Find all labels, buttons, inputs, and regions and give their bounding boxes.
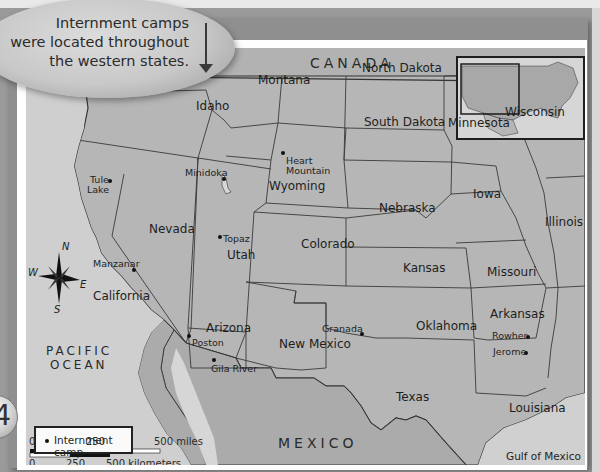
scale-miles-0: 0: [29, 436, 35, 447]
camp-label-granada: Granada: [322, 324, 363, 334]
country-label-mexico: MEXICO: [278, 436, 357, 450]
state-label-wyoming: Wyoming: [269, 180, 325, 192]
camp-marker-poston: [187, 334, 191, 338]
scale-miles-250: 250: [86, 436, 105, 447]
compass-north: N: [62, 242, 69, 252]
down-arrow-icon: [205, 23, 207, 67]
compass-east: E: [80, 280, 86, 290]
callout-text: Internment camps were located throughout…: [10, 14, 189, 71]
camp-marker-topaz: [218, 235, 222, 239]
state-label-arkansas: Arkansas: [490, 308, 545, 320]
camp-label-heart-mountain-line2: Mountain: [286, 166, 330, 176]
state-label-iowa: Iowa: [473, 188, 501, 200]
page-edge: [592, 8, 600, 472]
state-label-nebraska: Nebraska: [379, 202, 436, 214]
state-label-south-dakota: South Dakota: [364, 116, 445, 128]
callout-line-1: Internment camps: [10, 14, 189, 33]
callout-line-3: the western states.: [10, 52, 189, 71]
scale-miles-500: 500 miles: [154, 436, 203, 447]
camp-marker-heart-mountain: [281, 151, 285, 155]
callout-line-2: were located throughout: [10, 33, 189, 52]
compass-south: S: [54, 305, 60, 315]
down-arrowhead-icon: [199, 64, 213, 73]
camp-label-gila-river: Gila River: [211, 364, 257, 374]
state-label-nevada: Nevada: [149, 223, 195, 235]
water-label-gulf-of-mexico: Gulf of Mexico: [506, 451, 581, 462]
state-label-texas: Texas: [396, 391, 429, 403]
state-label-missouri: Missouri: [487, 266, 536, 278]
state-label-wisconsin: Wisconsin: [505, 106, 565, 118]
camp-label-tule-lake-line2: Lake: [87, 185, 109, 195]
compass-rose: N S E W: [34, 248, 84, 308]
compass-west: W: [28, 268, 38, 278]
camp-label-topaz: Topaz: [223, 234, 250, 244]
state-label-montana: Montana: [258, 74, 310, 86]
state-label-california: California: [93, 290, 150, 302]
page-number: 4: [0, 399, 11, 432]
state-label-illinois: Illinois: [545, 216, 583, 228]
state-label-minnesota: Minnesota: [448, 117, 510, 129]
internment-camps-map: CANADA MEXICO PACIFIC OCEAN Gulf of Mexi…: [26, 48, 585, 465]
camp-label-rowher: Rowher: [492, 331, 528, 341]
state-label-oklahoma: Oklahoma: [416, 320, 477, 332]
camp-marker-gila-river: [212, 358, 216, 362]
scale-km-250: 250: [66, 458, 85, 465]
state-label-kansas: Kansas: [403, 262, 445, 274]
camp-label-jerome: Jerome: [493, 347, 526, 357]
state-label-louisiana: Louisiana: [509, 402, 566, 414]
state-label-idaho: Idaho: [196, 100, 229, 112]
camp-label-minidoka: Minidoka: [185, 168, 228, 178]
scale-km-0: 0: [29, 458, 35, 465]
water-label-pacific-line2: OCEAN: [50, 359, 108, 371]
water-label-pacific-line1: PACIFIC: [46, 345, 112, 357]
camp-label-poston: Poston: [192, 338, 224, 348]
state-label-utah: Utah: [227, 249, 255, 261]
state-label-new-mexico: New Mexico: [279, 338, 351, 350]
map-legend: Internment camp: [34, 426, 133, 454]
camp-label-manzanar: Manzanar: [93, 259, 140, 269]
legend-camp-dot-icon: [45, 439, 49, 443]
compass-icon: [34, 248, 84, 308]
scale-km-500: 500 kilometers: [106, 458, 181, 465]
state-label-arizona: Arizona: [206, 322, 251, 334]
state-label-colorado: Colorado: [301, 238, 355, 250]
state-label-north-dakota: North Dakota: [362, 62, 442, 74]
